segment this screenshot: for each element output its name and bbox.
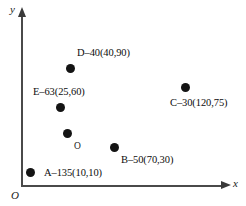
center-point-label: O [74, 142, 81, 152]
data-point-a [26, 168, 35, 177]
data-point-c [181, 83, 190, 92]
y-axis-line [21, 14, 23, 187]
x-axis-line [21, 185, 224, 187]
data-point-e [56, 103, 65, 112]
data-point-label-b: B–50(70,30) [121, 155, 173, 166]
origin-label: O [11, 190, 19, 201]
data-point-label-e: E–63(25,60) [33, 87, 85, 98]
data-point-label-c: C–30(120,75) [170, 98, 227, 109]
center-point-marker [63, 129, 72, 138]
data-point-label-a: A–135(10,10) [44, 168, 102, 179]
scatter-plot-figure: y x O A–135(10,10)B–50(70,30)C–30(120,75… [0, 0, 246, 206]
data-point-label-d: D–40(40,90) [77, 48, 130, 59]
x-axis-arrowhead-icon [221, 181, 231, 189]
x-axis-label: x [233, 178, 238, 189]
y-axis-label: y [10, 4, 15, 15]
data-point-d [66, 64, 75, 73]
data-point-b [110, 143, 119, 152]
y-axis-arrowhead-icon [18, 7, 26, 17]
